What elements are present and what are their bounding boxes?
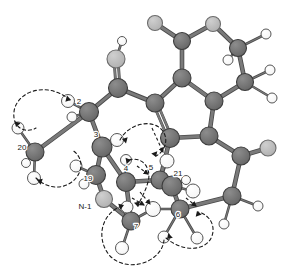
atom-label-21: 21 (174, 169, 183, 178)
atom-carbon (205, 92, 223, 110)
atom-hydrogen (28, 172, 41, 185)
atom-carbon (237, 74, 254, 91)
atom-hydrogen (265, 65, 275, 75)
atom-hydrogen (219, 219, 229, 229)
atom-label-4: 4 (124, 164, 129, 173)
atom-heteroatom (260, 140, 276, 156)
atom-hydrogen (261, 29, 271, 39)
atom-label-7: 7 (134, 222, 139, 231)
atom-carbon (173, 69, 191, 87)
atom-label-5: 5 (149, 163, 154, 172)
atom-hydrogen (191, 232, 203, 244)
atom-hydrogen (121, 201, 133, 213)
atom-hydrogen (111, 134, 124, 147)
noe-arrowhead (134, 202, 141, 208)
atom-heteroatom (107, 50, 125, 68)
atom-carbon (230, 40, 247, 57)
atom-hydrogen (182, 176, 191, 185)
noe-arrow (140, 192, 150, 204)
atom-label-20: 20 (18, 143, 27, 152)
atom-label-19: 19 (84, 174, 93, 183)
atom-carbon (223, 187, 241, 205)
atom-carbon (174, 33, 191, 50)
atom-carbon (109, 79, 128, 98)
atom-hydrogen (146, 202, 161, 217)
molecular-structure-figure: 20202233191944N-1N-17755212166 (0, 0, 287, 280)
atom-layer (12, 16, 277, 255)
atom-carbon (232, 147, 250, 165)
atom-label-6: 6 (176, 210, 181, 219)
atom-hydrogen (160, 154, 174, 168)
molecule-canvas: 20202233191944N-1N-17755212166 (0, 0, 287, 280)
atom-heteroatom (148, 16, 163, 31)
atom-carbon (80, 103, 99, 122)
atom-hydrogen (62, 95, 75, 108)
atom-label-3: 3 (94, 130, 99, 139)
atom-hydrogen (267, 93, 277, 103)
atom-label-N1: N-1 (79, 202, 92, 211)
atom-hydrogen (186, 184, 200, 198)
atom-hydrogen (116, 242, 129, 255)
noe-dashed-loop (166, 212, 213, 248)
bond (35, 112, 89, 152)
atom-heteroatom (96, 191, 113, 208)
atom-hydrogen (67, 112, 77, 122)
atom-carbon (26, 143, 44, 161)
atom-hydrogen (118, 37, 127, 46)
atom-hydrogen (22, 159, 31, 168)
atom-heteroatom (206, 17, 221, 32)
atom-hydrogen (253, 201, 263, 211)
atom-carbon (200, 127, 218, 145)
atom-carbon (117, 173, 136, 192)
atom-carbon (162, 176, 182, 196)
atom-carbon (92, 137, 112, 157)
atom-label-2: 2 (77, 97, 82, 106)
atom-carbon (146, 94, 164, 112)
noe-arrowhead (194, 210, 202, 217)
bond-layer (18, 23, 272, 248)
atom-hydrogen (223, 55, 233, 65)
